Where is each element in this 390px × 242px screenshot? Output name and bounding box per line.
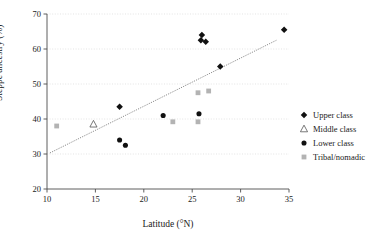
x-tick-label-15: 15 — [91, 194, 100, 204]
data-point-3-4 — [206, 89, 211, 94]
data-point-1-0 — [90, 120, 97, 127]
legend-item-label: Lower class — [311, 138, 354, 148]
y-tick-label-70: 70 — [21, 9, 41, 19]
x-tick-label-30: 30 — [236, 194, 245, 204]
axes-group — [44, 14, 290, 193]
legend-item-upper-class[interactable]: Upper class — [297, 108, 387, 122]
series-middle-class — [90, 120, 97, 127]
filled-square-icon — [297, 150, 311, 164]
x-tick-label-20: 20 — [140, 194, 149, 204]
data-point-0-2 — [198, 37, 205, 44]
y-tick-label-20: 20 — [21, 184, 41, 194]
data-point-2-0 — [117, 137, 122, 142]
x-tick-label-25: 25 — [188, 194, 197, 204]
data-point-3-2 — [196, 119, 201, 124]
legend-item-label: Upper class — [311, 110, 353, 120]
filled-circle-marker — [301, 140, 306, 145]
y-tick-label-30: 30 — [21, 149, 41, 159]
x-tick-label-35: 35 — [285, 194, 294, 204]
y-tick-label-50: 50 — [21, 79, 41, 89]
data-point-2-1 — [123, 143, 128, 148]
series-lower-class — [117, 111, 201, 148]
legend-item-label: Tribal/nomadic — [311, 152, 365, 162]
y-tick-label-60: 60 — [21, 44, 41, 54]
trendline — [50, 40, 277, 153]
data-point-3-3 — [196, 90, 201, 95]
data-point-0-5 — [281, 26, 288, 33]
legend-item-middle-class[interactable]: Middle class — [297, 122, 387, 136]
legend-item-lower-class[interactable]: Lower class — [297, 136, 387, 150]
chart-legend: Upper classMiddle classLower classTribal… — [297, 108, 387, 164]
filled-diamond-marker — [301, 112, 308, 119]
filled-square-marker — [302, 155, 307, 160]
data-point-2-3 — [196, 111, 201, 116]
open-triangle-marker — [300, 125, 307, 132]
data-point-2-2 — [161, 113, 166, 118]
data-point-0-3 — [202, 38, 209, 45]
filled-diamond-icon — [297, 108, 311, 122]
data-point-0-4 — [217, 63, 224, 70]
x-axis-title: Latitude (°N) — [47, 219, 289, 229]
legend-item-label: Middle class — [311, 124, 356, 134]
trendline-group — [50, 40, 277, 153]
x-tick-label-10: 10 — [43, 194, 52, 204]
data-point-0-1 — [199, 32, 206, 39]
series-upper-class — [116, 26, 287, 110]
gridlines-group — [47, 14, 289, 154]
series-tribal-nomadic — [54, 89, 211, 129]
legend-item-tribal-nomadic[interactable]: Tribal/nomadic — [297, 150, 387, 164]
data-point-3-0 — [54, 124, 59, 129]
data-point-0-0 — [116, 103, 123, 110]
open-triangle-icon — [297, 122, 311, 136]
y-axis-title: Steppe ancestry (%) — [0, 25, 4, 102]
data-point-3-1 — [170, 119, 175, 124]
y-tick-label-40: 40 — [21, 114, 41, 124]
data-points-group — [54, 26, 287, 147]
scatter-chart-figure: 203040506070101520253035 Steppe ancestry… — [0, 0, 390, 242]
filled-circle-icon — [297, 136, 311, 150]
